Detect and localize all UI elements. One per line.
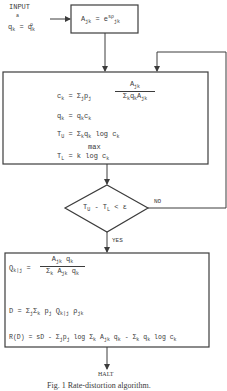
figure-caption: Fig. 1 Rate-distortion algorithm. [47,381,151,390]
iterate-line-ck: ck = Σjpj [57,92,91,102]
input-init-equation: qk = qko [8,22,33,33]
iterate-line-max: max [88,143,101,151]
iterate-fraction: Ajk ΣkqkAjk [115,80,155,102]
init-box-equation: Ajk = esρjk [81,14,120,25]
output-line-q: Qk|j = [9,264,31,274]
iterate-box [3,72,208,164]
output-fraction: Ajk qk Σk Ajk qk [40,255,85,277]
output-line-rd: R(D) = sD - Σjpj log Σk Ajk qk - Σk qk l… [9,334,177,343]
iterate-line-tu: TU = Σkqk log ck [57,130,120,140]
iterate-line-qk: qk = qkck [57,112,91,122]
iterate-line-tl: TL = k log ck [57,152,109,162]
decision-no-label: NO [154,198,161,205]
decision-condition: TU - TL < ε [83,203,127,213]
input-label: INPUTa [9,3,30,19]
decision-yes-label: YES [112,237,123,244]
output-box [5,253,209,347]
output-line-d: D = ΣjΣk pj Qk|j ρjk [9,307,84,317]
halt-label: HALT [98,371,113,377]
flowchart-connectors [0,0,227,391]
